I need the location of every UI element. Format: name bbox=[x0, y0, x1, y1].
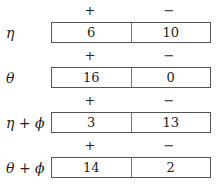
count-box: 14 2 bbox=[51, 157, 211, 178]
row-eta-plus-phi: + − η + ϕ 3 13 bbox=[0, 94, 223, 138]
count-box: 3 13 bbox=[51, 112, 211, 133]
row-label: η + ϕ bbox=[6, 113, 45, 133]
row-theta: + − θ 16 0 bbox=[0, 49, 223, 93]
plus-header: + bbox=[75, 49, 105, 63]
row-theta-plus-phi: + − θ + ϕ 14 2 bbox=[0, 139, 223, 183]
minus-count: 0 bbox=[132, 68, 211, 87]
plus-header: + bbox=[75, 4, 105, 18]
plus-header: + bbox=[75, 94, 105, 108]
minus-count: 10 bbox=[132, 23, 211, 42]
plus-count: 6 bbox=[52, 23, 132, 42]
count-box: 16 0 bbox=[51, 67, 211, 88]
row-label: θ + ϕ bbox=[6, 158, 45, 178]
minus-header: − bbox=[154, 4, 184, 18]
minus-count: 13 bbox=[132, 113, 211, 132]
plus-header: + bbox=[75, 139, 105, 153]
minus-header: − bbox=[154, 49, 184, 63]
minus-count: 2 bbox=[132, 158, 211, 177]
row-eta: + − η 6 10 bbox=[0, 4, 223, 48]
count-box: 6 10 bbox=[51, 22, 211, 43]
plus-count: 14 bbox=[52, 158, 132, 177]
row-label: η bbox=[6, 23, 14, 43]
minus-header: − bbox=[154, 94, 184, 108]
plus-count: 16 bbox=[52, 68, 132, 87]
row-label: θ bbox=[6, 68, 14, 88]
plus-count: 3 bbox=[52, 113, 132, 132]
minus-header: − bbox=[154, 139, 184, 153]
